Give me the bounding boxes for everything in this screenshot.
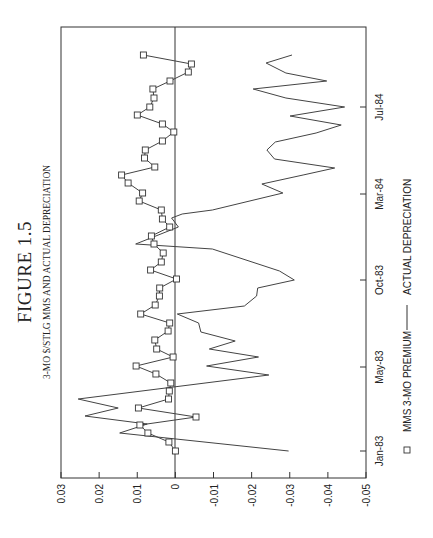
mms-square-marker-icon (133, 363, 139, 369)
mms-square-marker-icon (158, 207, 164, 213)
value-tick-label: -0.02 (247, 484, 258, 507)
date-tick-label: May-83 (374, 350, 385, 384)
date-tick-label: Mar-84 (374, 178, 385, 210)
mms-premium-line (122, 55, 196, 451)
mms-square-marker-icon (152, 337, 158, 343)
mms-square-marker-icon (159, 138, 165, 144)
mms-square-marker-icon (142, 155, 148, 161)
mms-square-marker-icon (137, 422, 143, 428)
mms-square-marker-icon (152, 302, 158, 308)
mms-premium-markers (119, 52, 199, 454)
mms-square-marker-icon (142, 147, 148, 153)
mms-square-marker-icon (157, 285, 163, 291)
mms-square-marker-icon (138, 311, 144, 317)
mms-square-marker-icon (135, 405, 141, 411)
mms-square-marker-icon (158, 259, 164, 265)
mms-square-marker-icon (154, 346, 160, 352)
mms-square-marker-icon (166, 439, 172, 445)
mms-square-marker-icon (165, 328, 171, 334)
mms-square-marker-icon (167, 78, 173, 84)
legend: MMS 3-MO PREMIUM ACTUAL DEPRECIATION (402, 179, 413, 453)
chart-title: FIGURE 1.5 (14, 221, 35, 323)
value-tick-label: 0.01 (132, 484, 143, 504)
value-tick-label: 0 (170, 484, 181, 490)
actual-depreciation-line (78, 55, 344, 451)
mms-square-marker-icon (168, 380, 174, 386)
value-tick-label: -0.01 (209, 484, 220, 507)
mms-square-marker-icon (153, 371, 159, 377)
mms-square-marker-icon (156, 293, 162, 299)
mms-square-marker-icon (193, 414, 199, 420)
mms-square-marker-icon (152, 164, 158, 170)
value-tick-label: -0.05 (361, 484, 372, 507)
chart-title-group: FIGURE 1.5 3-MO $/STLG MMS AND ACTUAL DE… (14, 165, 52, 379)
mms-square-marker-icon (147, 104, 153, 110)
legend-label-mms: MMS 3-MO PREMIUM (402, 331, 413, 432)
mms-square-marker-icon (159, 121, 165, 127)
mms-square-marker-icon (167, 224, 173, 230)
date-tick-label: Jul-84 (374, 93, 385, 121)
chart: FIGURE 1.5 3-MO $/STLG MMS AND ACTUAL DE… (0, 0, 433, 538)
mms-square-marker-icon (166, 388, 172, 394)
mms-square-marker-icon (140, 190, 146, 196)
date-tick-label: Jan-83 (374, 435, 385, 466)
mms-square-marker-icon (136, 198, 142, 204)
chart-subtitle: 3-MO $/STLG MMS AND ACTUAL DEPRECIATION (42, 165, 52, 379)
mms-square-marker-icon (170, 354, 176, 360)
mms-square-marker-icon (185, 69, 191, 75)
value-tick-label: -0.03 (285, 484, 296, 507)
date-tick-label: Oct-83 (374, 265, 385, 295)
mms-square-marker-icon (160, 250, 166, 256)
mms-square-marker-icon (174, 276, 180, 282)
mms-square-marker-icon (145, 430, 151, 436)
legend-square-marker-icon (404, 447, 410, 453)
mms-square-marker-icon (171, 129, 177, 135)
mms-square-marker-icon (148, 267, 154, 273)
legend-label-actual: ACTUAL DEPRECIATION (402, 179, 413, 295)
mms-square-marker-icon (148, 233, 154, 239)
mms-square-marker-icon (134, 112, 140, 118)
mms-square-marker-icon (119, 172, 125, 178)
mms-square-marker-icon (151, 95, 157, 101)
date-axis: Jan-83May-83Oct-83Mar-84Jul-84 (360, 93, 385, 466)
mms-square-marker-icon (159, 216, 165, 222)
mms-square-marker-icon (151, 241, 157, 247)
value-tick-label: -0.04 (323, 484, 334, 507)
mms-square-marker-icon (150, 86, 156, 92)
value-tick-label: 0.02 (94, 484, 105, 504)
mms-square-marker-icon (172, 448, 178, 454)
value-axis: 0.030.020.010-0.01-0.02-0.03-0.04-0.05 (56, 472, 372, 507)
mms-square-marker-icon (140, 52, 146, 58)
mms-square-marker-icon (167, 320, 173, 326)
value-tick-label: 0.03 (56, 484, 67, 504)
mms-square-marker-icon (166, 396, 172, 402)
mms-square-marker-icon (125, 180, 131, 186)
mms-square-marker-icon (188, 61, 194, 67)
